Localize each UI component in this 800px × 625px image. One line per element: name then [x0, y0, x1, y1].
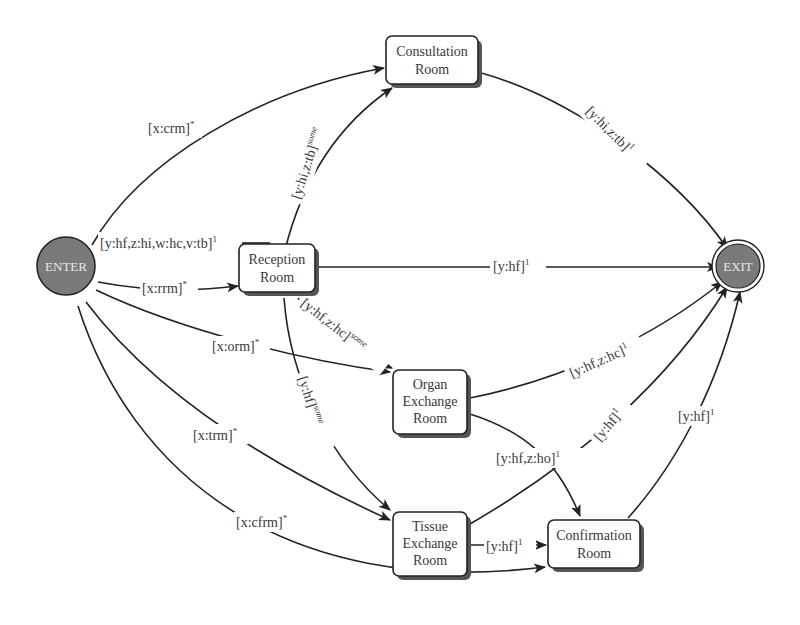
node-enter-label: ENTER	[45, 259, 87, 274]
label-enter-reception: [x:rrm]*	[142, 279, 187, 296]
svg-text:Exchange: Exchange	[402, 536, 457, 551]
node-reception-room: Reception Room	[239, 244, 319, 296]
edge-enter-confirmation	[78, 306, 545, 572]
label-tissue-confirmation: [y:hf]1	[486, 537, 522, 554]
edge-tissue-exit	[470, 287, 727, 524]
label-confirmation-exit: [y:hf]1	[678, 407, 714, 424]
edge-confirmation-exit	[628, 292, 740, 518]
svg-text:Organ: Organ	[413, 377, 448, 392]
label-reception-organ: [y:hf,z:hc]some	[298, 294, 369, 355]
node-consultation-room: Consultation Room	[386, 36, 482, 88]
edge-organ-exit	[470, 282, 722, 398]
node-enter: ENTER	[37, 237, 95, 295]
label-enter-tissue: [x:trm]*	[193, 426, 238, 443]
label-organ-confirmation: [y:hf,z:ho]1	[496, 449, 560, 466]
edge-enter-consultation	[92, 68, 384, 245]
label-reception-exit: [y:hf]1	[493, 257, 529, 274]
label-consultation-exit: [y:hi,z:tb]1	[583, 102, 638, 157]
node-exit: EXIT	[712, 240, 764, 292]
svg-text:Room: Room	[577, 546, 611, 561]
node-confirmation-room: Confirmation Room	[548, 520, 644, 572]
node-tissue-exchange-room: Tissue Exchange Room	[393, 512, 471, 580]
workflow-diagram: [x:crm]* [y:hf,z:hi,w:hc,v:tb]1 [x:rrm]*…	[0, 0, 800, 625]
svg-text:Tissue: Tissue	[412, 519, 448, 534]
svg-text:Exchange: Exchange	[402, 394, 457, 409]
label-enter-exit: [y:hf,z:hi,w:hc,v:tb]1	[100, 234, 217, 251]
node-exit-label: EXIT	[723, 259, 753, 274]
svg-text:Confirmation: Confirmation	[556, 528, 631, 543]
svg-text:Room: Room	[413, 553, 447, 568]
svg-text:Reception: Reception	[249, 252, 306, 267]
node-organ-exchange-room: Organ Exchange Room	[393, 370, 471, 438]
label-enter-organ: [x:orm]*	[212, 337, 260, 354]
edge-consultation-exit	[478, 72, 727, 248]
label-enter-confirmation: [x:cfrm]*	[236, 513, 288, 530]
label-enter-consultation: [x:crm]*	[148, 119, 195, 136]
svg-text:Room: Room	[413, 411, 447, 426]
edges	[78, 68, 740, 572]
svg-text:Room: Room	[415, 62, 449, 77]
svg-text:Room: Room	[260, 270, 294, 285]
svg-text:Consultation: Consultation	[396, 44, 468, 59]
